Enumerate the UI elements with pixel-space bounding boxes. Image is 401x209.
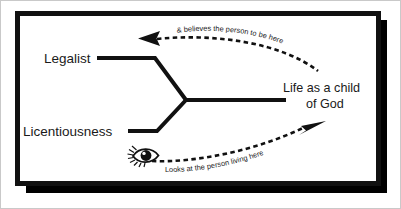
node-label-licentiousness: Licentiousness: [23, 124, 113, 139]
diagram-illustration: Legalist Licentiousness Life as a child …: [0, 0, 401, 209]
node-label-life-line2: of God: [306, 97, 344, 111]
diagram-canvas: Legalist Licentiousness Life as a child …: [0, 0, 401, 209]
node-label-life-line1: Life as a child: [283, 81, 360, 95]
node-label-legalist: Legalist: [44, 51, 91, 66]
